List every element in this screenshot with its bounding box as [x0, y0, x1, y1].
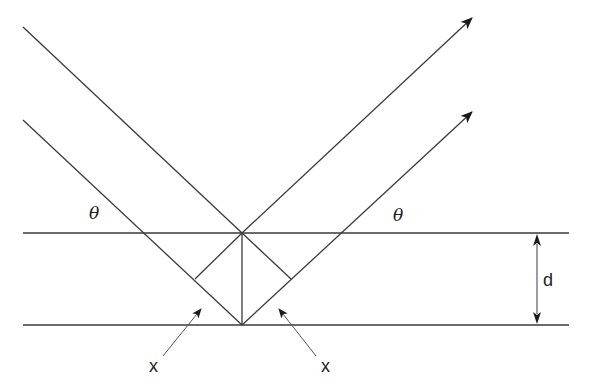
incident-ray-lower	[23, 120, 242, 325]
theta-right-label: θ	[393, 207, 403, 224]
path-arrow-left	[163, 309, 201, 356]
bragg-diagram	[0, 0, 591, 388]
reflected-ray-upper	[242, 18, 472, 233]
path-right-label: x	[321, 357, 330, 375]
incident-ray-upper	[23, 27, 242, 233]
path-left-label: x	[149, 357, 158, 375]
theta-left-label: θ	[89, 205, 99, 222]
perpendicular-right	[242, 233, 291, 279]
perpendicular-left	[195, 233, 242, 279]
reflected-ray-lower	[242, 112, 472, 325]
path-arrow-right	[279, 309, 316, 356]
spacing-label: d	[543, 271, 553, 289]
